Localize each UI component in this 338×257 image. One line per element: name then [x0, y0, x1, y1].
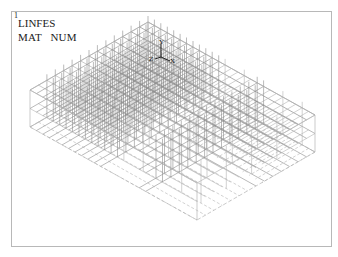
line-elements: [30, 16, 315, 220]
triad-x-label: X: [170, 57, 175, 65]
triad-z-label: Z: [149, 55, 153, 63]
wireframe-model: Y Z X: [0, 0, 338, 257]
axis-triad: Y Z X: [149, 38, 175, 65]
triad-y-label: Y: [159, 38, 164, 46]
